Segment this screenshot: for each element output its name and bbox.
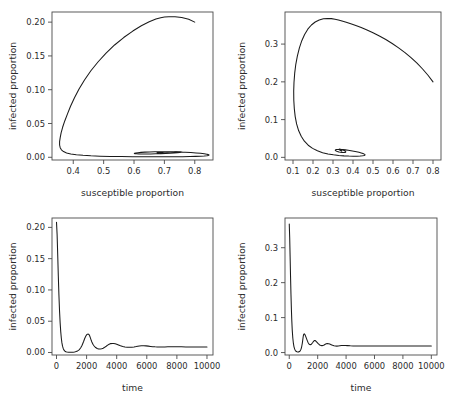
plot-bottom-left: 02000400060008000100000.000.050.100.150.… — [0, 207, 229, 414]
y-tick-label: 0.2 — [265, 278, 278, 288]
x-tick-label: 0.3 — [326, 166, 339, 176]
x-axis-title: susceptible proportion — [312, 187, 415, 198]
plot-frame — [285, 218, 437, 355]
x-tick-label: 0.2 — [306, 166, 319, 176]
y-tick-label: 0.1 — [265, 115, 278, 125]
x-tick-label: 4000 — [106, 361, 127, 371]
y-tick-label: 0.15 — [26, 254, 45, 264]
y-tick-label: 0.15 — [26, 51, 45, 61]
x-tick-label: 0.5 — [97, 166, 110, 176]
y-tick-label: 0.3 — [265, 243, 278, 253]
x-tick-label: 4000 — [335, 361, 356, 371]
x-tick-label: 6000 — [136, 361, 157, 371]
x-tick-label: 0.7 — [406, 166, 419, 176]
data-curve-infected — [57, 222, 207, 352]
y-axis-title: infected proportion — [7, 242, 18, 330]
plot-frame — [52, 218, 213, 355]
y-tick-label: 0.05 — [26, 316, 45, 326]
x-tick-label: 8000 — [166, 361, 187, 371]
y-axis-title: infected proportion — [236, 242, 247, 330]
y-tick-label: 0.0 — [265, 348, 278, 358]
data-curve-trajectory — [60, 17, 209, 157]
x-tick-label: 6000 — [364, 361, 385, 371]
plot-top-left: 0.40.50.60.70.80.000.050.100.150.20susce… — [0, 0, 229, 207]
y-tick-label: 0.20 — [26, 17, 45, 27]
x-tick-label: 0.8 — [426, 166, 439, 176]
x-tick-label: 10000 — [194, 361, 221, 371]
x-tick-label: 0.5 — [366, 166, 379, 176]
data-curve-trajectory — [294, 18, 433, 156]
y-tick-label: 0.10 — [26, 285, 45, 295]
panel-top-right-phase-portrait: 0.10.20.30.40.50.60.70.80.00.10.20.3susc… — [229, 0, 457, 207]
panel-bottom-left-time-series: 02000400060008000100000.000.050.100.150.… — [0, 207, 229, 414]
y-tick-label: 0.00 — [26, 347, 45, 357]
y-tick-label: 0.1 — [265, 313, 278, 323]
x-axis-title: time — [122, 382, 143, 393]
x-tick-label: 0.7 — [158, 166, 171, 176]
panel-bottom-right-time-series: 02000400060008000100000.00.10.20.3timein… — [229, 207, 457, 414]
panel-top-left-phase-portrait: 0.40.50.60.70.80.000.050.100.150.20susce… — [0, 0, 229, 207]
x-tick-label: 0.4 — [346, 166, 359, 176]
plot-top-right: 0.10.20.30.40.50.60.70.80.00.10.20.3susc… — [229, 0, 457, 207]
x-tick-label: 0.1 — [286, 166, 299, 176]
y-axis-title: infected proportion — [236, 42, 247, 130]
y-tick-label: 0.0 — [265, 152, 278, 162]
x-tick-label: 0.4 — [67, 166, 80, 176]
x-axis-title: susceptible proportion — [81, 187, 184, 198]
plot-frame — [52, 12, 213, 160]
x-tick-label: 2000 — [307, 361, 328, 371]
x-tick-label: 10000 — [418, 361, 445, 371]
y-tick-label: 0.05 — [26, 119, 45, 129]
plot-frame — [285, 12, 441, 160]
x-tick-label: 0 — [287, 361, 292, 371]
y-tick-label: 0.20 — [26, 222, 45, 232]
x-tick-label: 0.8 — [188, 166, 201, 176]
x-tick-label: 8000 — [392, 361, 413, 371]
x-tick-label: 0.6 — [386, 166, 399, 176]
x-tick-label: 0.6 — [127, 166, 140, 176]
x-tick-label: 0 — [54, 361, 59, 371]
y-tick-label: 0.00 — [26, 152, 45, 162]
y-tick-label: 0.10 — [26, 85, 45, 95]
x-axis-title: time — [351, 382, 372, 393]
data-curve-infected — [289, 224, 431, 352]
y-tick-label: 0.2 — [265, 77, 278, 87]
x-tick-label: 2000 — [76, 361, 97, 371]
plot-bottom-right: 02000400060008000100000.00.10.20.3timein… — [229, 207, 457, 414]
y-axis-title: infected proportion — [7, 42, 18, 130]
y-tick-label: 0.3 — [265, 39, 278, 49]
figure-panel-grid: 0.40.50.60.70.80.000.050.100.150.20susce… — [0, 0, 457, 414]
